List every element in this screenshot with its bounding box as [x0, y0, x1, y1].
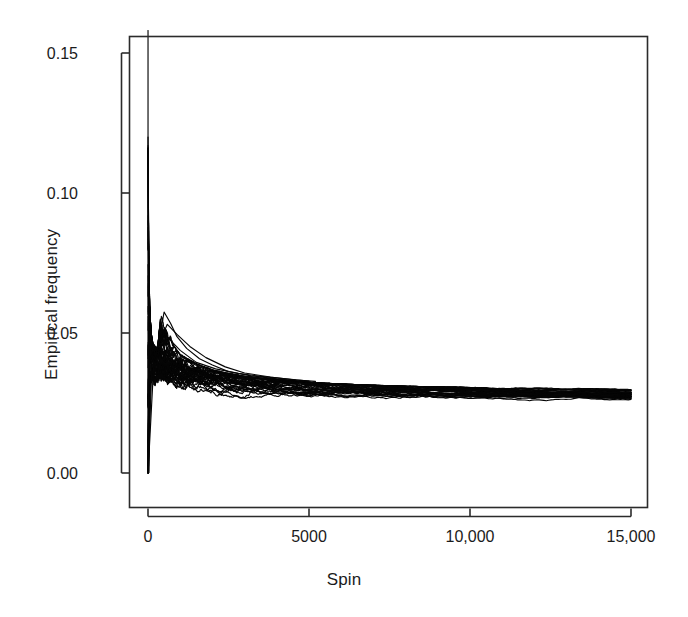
x-tick-label-2: 10,000: [425, 528, 515, 546]
trace-line: [148, 148, 631, 393]
trace-line: [148, 339, 631, 473]
y-tick-marks: [122, 53, 130, 473]
trace-line: [148, 148, 631, 393]
y-tick-label-0: 0.15: [16, 45, 78, 63]
y-axis-title: Empirical frequency: [42, 229, 62, 380]
plot-canvas: [0, 0, 688, 617]
y-tick-label-1: 0.10: [16, 185, 78, 203]
plot-frame: [130, 37, 648, 508]
x-axis-title: Spin: [0, 570, 688, 590]
y-tick-label-3: 0.00: [16, 465, 78, 483]
trace-line: [148, 308, 631, 399]
trace-line: [148, 145, 631, 398]
trace-bundle: [148, 31, 631, 473]
x-tick-label-3: 15,000: [586, 528, 676, 546]
chart-figure: 0.15 0.10 0.05 0.00 0 5000 10,000 15,000…: [0, 0, 688, 617]
x-tick-label-0: 0: [103, 528, 193, 546]
trace-line: [148, 137, 631, 395]
x-tick-marks: [148, 509, 631, 517]
x-tick-label-1: 5000: [264, 528, 354, 546]
trace-line: [148, 148, 631, 391]
trace-line: [148, 148, 631, 397]
axis-group: [122, 37, 648, 517]
